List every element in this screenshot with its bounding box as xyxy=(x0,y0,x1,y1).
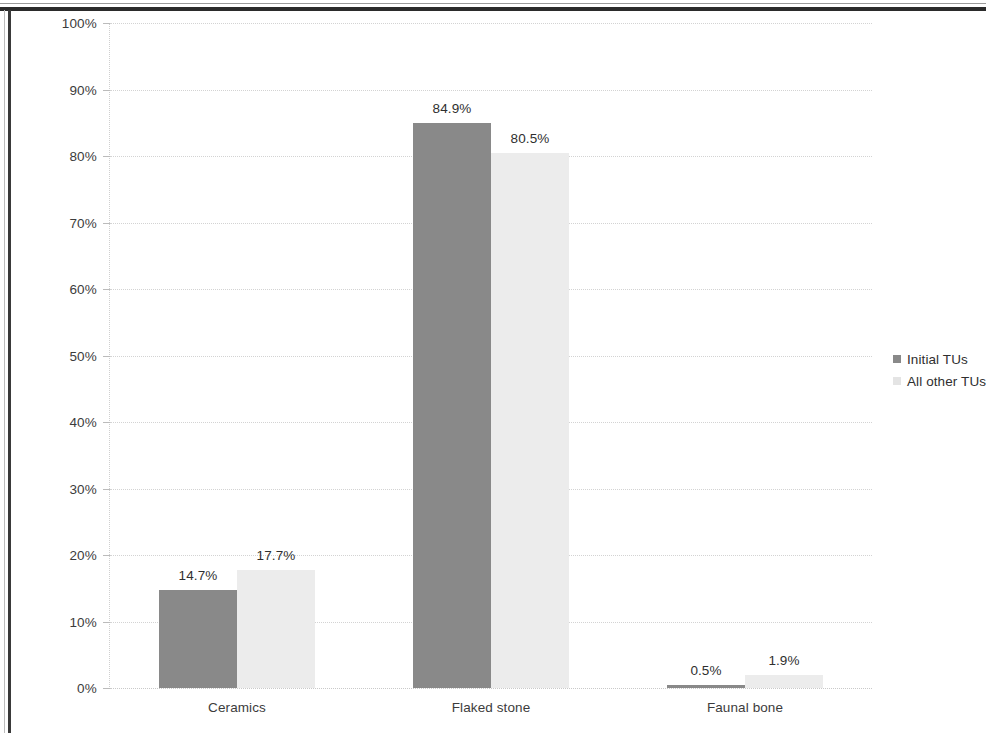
bar[interactable] xyxy=(745,675,823,688)
y-axis-tick-mark xyxy=(103,622,110,623)
bar-value-label: 17.7% xyxy=(237,548,315,563)
y-axis-tick-label: 80% xyxy=(7,149,97,164)
y-axis-tick-mark xyxy=(103,356,110,357)
y-axis-tick-mark xyxy=(103,688,110,689)
bar[interactable] xyxy=(491,153,569,688)
y-axis-tick-label: 20% xyxy=(7,548,97,563)
legend-label: Initial TUs xyxy=(907,352,968,367)
bar[interactable] xyxy=(667,685,745,688)
bar[interactable] xyxy=(413,123,491,688)
bar-value-label: 0.5% xyxy=(667,663,745,678)
y-axis-tick-label: 0% xyxy=(7,681,97,696)
gridline xyxy=(110,688,872,690)
legend-swatch-icon xyxy=(893,355,901,363)
y-axis-tick-mark xyxy=(103,156,110,157)
y-axis-tick-label: 30% xyxy=(7,481,97,496)
y-axis-tick-label: 50% xyxy=(7,348,97,363)
legend-item-initial-tus[interactable]: Initial TUs xyxy=(893,348,986,370)
y-axis-tick-label: 70% xyxy=(7,215,97,230)
y-axis-tick-mark xyxy=(103,289,110,290)
y-axis-tick-label: 90% xyxy=(7,82,97,97)
y-axis-tick-mark xyxy=(103,489,110,490)
y-axis-tick-mark xyxy=(103,422,110,423)
bar-value-label: 1.9% xyxy=(745,653,823,668)
gridline xyxy=(110,23,872,25)
y-axis-tick-mark xyxy=(103,555,110,556)
gridline xyxy=(110,90,872,92)
bar-chart: 0%10%20%30%40%50%60%70%80%90%100% 14.7%1… xyxy=(0,0,986,733)
y-axis-tick-mark xyxy=(103,23,110,24)
bar-value-label: 84.9% xyxy=(413,101,491,116)
y-axis-tick-label: 60% xyxy=(7,282,97,297)
y-axis-tick-label: 10% xyxy=(7,614,97,629)
bar-value-label: 14.7% xyxy=(159,568,237,583)
chart-page: 0%10%20%30%40%50%60%70%80%90%100% 14.7%1… xyxy=(0,0,986,733)
legend-label: All other TUs xyxy=(907,374,986,389)
x-axis-category-label: Ceramics xyxy=(137,700,337,715)
bar[interactable] xyxy=(159,590,237,688)
y-axis-tick-mark xyxy=(103,223,110,224)
x-axis-category-label: Faunal bone xyxy=(645,700,845,715)
legend-swatch-icon xyxy=(893,377,901,385)
y-axis-tick-label: 100% xyxy=(7,16,97,31)
x-axis-category-label: Flaked stone xyxy=(391,700,591,715)
bar-value-label: 80.5% xyxy=(491,131,569,146)
y-axis-tick-label: 40% xyxy=(7,415,97,430)
chart-legend: Initial TUs All other TUs xyxy=(893,348,986,392)
legend-item-all-other-tus[interactable]: All other TUs xyxy=(893,370,986,392)
bar[interactable] xyxy=(237,570,315,688)
plot-area xyxy=(110,23,872,688)
y-axis-tick-mark xyxy=(103,90,110,91)
